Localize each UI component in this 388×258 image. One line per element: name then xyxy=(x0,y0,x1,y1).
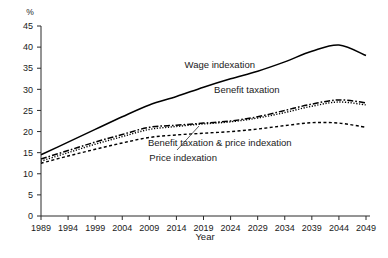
x-tick-label: 1999 xyxy=(85,223,105,233)
x-tick-label: 2034 xyxy=(275,223,295,233)
series-label-3: Price indexation xyxy=(149,152,217,163)
y-tick-label: 45 xyxy=(23,21,33,31)
x-tick-label: 2039 xyxy=(302,223,322,233)
series-annotations: Wage indexationBenefit taxationBenefit t… xyxy=(148,59,292,163)
y-tick-label: 0 xyxy=(28,211,33,221)
y-tick-label: 20 xyxy=(23,127,33,137)
y-tick-label: 25 xyxy=(23,106,33,116)
x-tick-label: 2049 xyxy=(356,223,376,233)
x-tick-label: 1994 xyxy=(58,223,78,233)
y-axis-ticks xyxy=(37,26,41,216)
y-tick-label: 15 xyxy=(23,148,33,158)
x-tick-label: 2014 xyxy=(166,223,186,233)
line-chart: % 051015202530354045 1989199419992004200… xyxy=(0,0,388,258)
chart-container: % 051015202530354045 1989199419992004200… xyxy=(0,0,388,258)
x-tick-label: 1989 xyxy=(31,223,51,233)
y-axis-tick-labels: 051015202530354045 xyxy=(23,21,33,221)
series-label-1: Benefit taxation xyxy=(214,84,280,95)
x-tick-label: 2004 xyxy=(112,223,132,233)
series-label-2: Benefit taxation & price indexation xyxy=(148,137,292,148)
y-axis-unit-label: % xyxy=(26,7,34,17)
series-label-0: Wage indexation xyxy=(185,59,255,70)
x-axis-title: Year xyxy=(195,231,214,242)
y-tick-label: 40 xyxy=(23,42,33,52)
y-tick-label: 5 xyxy=(28,190,33,200)
x-tick-label: 2044 xyxy=(329,223,349,233)
y-tick-label: 10 xyxy=(23,169,33,179)
x-tick-label: 2009 xyxy=(139,223,159,233)
y-tick-label: 30 xyxy=(23,85,33,95)
x-tick-label: 2029 xyxy=(248,223,268,233)
x-axis-ticks xyxy=(41,216,366,220)
x-tick-label: 2024 xyxy=(221,223,241,233)
y-tick-label: 35 xyxy=(23,63,33,73)
